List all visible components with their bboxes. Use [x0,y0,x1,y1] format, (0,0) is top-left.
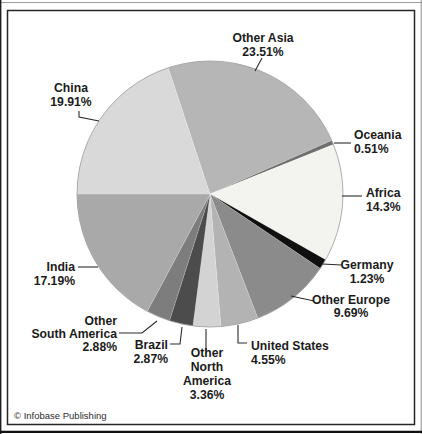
pie-chart-figure: Other Asia23.51%Oceania0.51%Africa14.3%G… [0,0,422,434]
pie-chart-canvas: Other Asia23.51%Oceania0.51%Africa14.3%G… [0,0,422,434]
slice-label-brazil: Brazil2.87% [133,338,168,366]
slice-label-africa: Africa14.3% [366,186,401,214]
pie-slices-group [77,61,343,327]
publisher-credit: © Infobase Publishing [14,410,107,421]
slice-label-china: China19.91% [50,81,91,109]
